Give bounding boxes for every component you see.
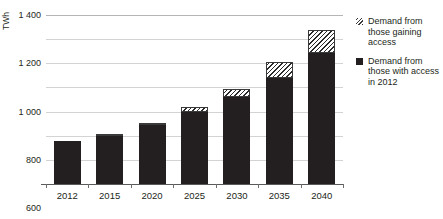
- bar-segment-gaining-access[interactable]: [139, 123, 166, 125]
- x-axis-tick-mark: [88, 184, 89, 188]
- y-axis-title: TWh: [2, 0, 11, 30]
- chart-legend: Demand from those gaining accessDemand f…: [356, 16, 443, 95]
- x-axis-tick-mark: [173, 184, 174, 188]
- x-axis-tick-label: 2040: [311, 190, 332, 201]
- y-axis-tick-label: 1 400: [18, 11, 41, 20]
- y-axis-tick-label: 1 000: [18, 107, 41, 116]
- x-axis-tick-label: 2020: [141, 190, 162, 201]
- bar-segment-access-2012[interactable]: [139, 125, 166, 184]
- bar-segment-access-2012[interactable]: [266, 78, 293, 184]
- x-axis-tick-mark: [258, 184, 259, 188]
- bar-segment-access-2012[interactable]: [181, 112, 208, 184]
- bar-segment-gaining-access[interactable]: [223, 89, 250, 97]
- x-axis-tick-label: 2030: [226, 190, 247, 201]
- legend-item-label: Demand from those gaining access: [368, 16, 443, 48]
- bar-series-container: [46, 15, 343, 184]
- x-axis-tick-mark: [343, 184, 344, 188]
- legend-item[interactable]: Demand from those with access in 2012: [356, 56, 443, 88]
- x-axis-tick-mark: [301, 184, 302, 188]
- plot-area: 1 4001 2001 000800600400200: [46, 15, 343, 184]
- x-axis-tick-label: 2025: [184, 190, 205, 201]
- x-axis-tick-label: 2012: [57, 190, 78, 201]
- cropped-chart-title: [0, 0, 443, 4]
- y-axis-tick-label: 600: [26, 204, 41, 213]
- y-axis-tick-label: 1 200: [18, 59, 41, 68]
- x-axis-ticks: 2012201520202025203020352040: [46, 184, 343, 219]
- bar-segment-gaining-access[interactable]: [96, 134, 123, 136]
- legend-item-label: Demand from those with access in 2012: [368, 56, 443, 88]
- bar-segment-access-2012[interactable]: [54, 141, 81, 184]
- bar-segment-access-2012[interactable]: [223, 97, 250, 184]
- bar-segment-access-2012[interactable]: [308, 53, 335, 184]
- bar-segment-gaining-access[interactable]: [308, 30, 335, 54]
- bar-segment-gaining-access[interactable]: [181, 107, 208, 112]
- chart-figure: TWh 1 4001 2001 000800600400200 20122015…: [0, 0, 443, 219]
- x-axis-tick-mark: [216, 184, 217, 188]
- bar-segment-access-2012[interactable]: [96, 136, 123, 184]
- x-axis-tick-mark: [46, 184, 47, 188]
- x-axis-tick-label: 2015: [99, 190, 120, 201]
- hatched-swatch-icon: [356, 18, 363, 25]
- legend-item[interactable]: Demand from those gaining access: [356, 16, 443, 48]
- bar-segment-gaining-access[interactable]: [266, 62, 293, 78]
- solid-swatch-icon: [356, 58, 363, 65]
- y-axis-tick-label: 800: [26, 155, 41, 164]
- x-axis-tick-mark: [131, 184, 132, 188]
- x-axis-tick-label: 2035: [269, 190, 290, 201]
